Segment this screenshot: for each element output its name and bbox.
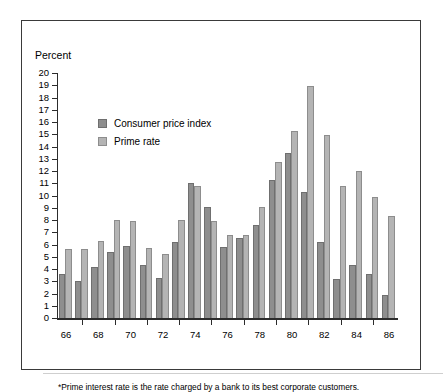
y-tick <box>52 171 57 172</box>
x-tick-label: 78 <box>248 329 272 340</box>
y-tick-label: 4 <box>27 264 49 273</box>
x-tick-label: 68 <box>86 329 110 340</box>
y-tick-label: 13 <box>27 154 49 163</box>
x-tick <box>82 319 83 325</box>
y-tick-label: 11 <box>27 178 49 187</box>
y-tick-label: 2 <box>27 289 49 298</box>
y-tick <box>52 147 57 148</box>
bar-prime-71 <box>146 248 152 318</box>
bar-prime-76 <box>227 235 233 318</box>
chart-legend: Consumer price index Prime rate <box>98 118 211 154</box>
y-tick-label: 3 <box>27 276 49 285</box>
x-tick-label: 76 <box>216 329 240 340</box>
y-tick-label: 12 <box>27 166 49 175</box>
y-tick-label: 8 <box>27 215 49 224</box>
y-tick <box>52 183 57 184</box>
y-tick <box>52 122 57 123</box>
y-tick-label: 5 <box>27 252 49 261</box>
x-tick <box>341 319 342 325</box>
y-tick <box>52 73 57 74</box>
y-tick-label: 17 <box>27 105 49 114</box>
plot-area <box>58 73 397 318</box>
bar-prime-75 <box>211 221 217 318</box>
bar-prime-74 <box>194 186 200 318</box>
chart-figure-frame: Percent 01234567891011121314151617181920… <box>21 20 421 370</box>
bar-prime-84 <box>356 171 362 318</box>
x-tick-label: 70 <box>119 329 143 340</box>
bar-prime-82 <box>324 135 330 318</box>
y-tick-label: 10 <box>27 191 49 200</box>
y-axis-title: Percent <box>35 49 71 61</box>
x-tick <box>147 319 148 325</box>
y-tick <box>52 232 57 233</box>
x-tick-label: 72 <box>151 329 175 340</box>
y-tick-label: 9 <box>27 203 49 212</box>
bar-prime-78 <box>259 207 265 318</box>
x-tick-label: 74 <box>183 329 207 340</box>
y-tick-label: 15 <box>27 129 49 138</box>
x-tick-label: 80 <box>280 329 304 340</box>
legend-label-prime: Prime rate <box>114 136 160 147</box>
x-tick-label: 82 <box>312 329 336 340</box>
y-tick <box>52 281 57 282</box>
x-tick <box>308 319 309 325</box>
y-tick <box>52 245 57 246</box>
y-tick <box>52 98 57 99</box>
y-tick-label: 18 <box>27 93 49 102</box>
x-tick-label: 66 <box>54 329 78 340</box>
y-tick <box>52 294 57 295</box>
x-tick-label: 84 <box>345 329 369 340</box>
bar-prime-73 <box>178 220 184 318</box>
bar-prime-79 <box>275 162 281 318</box>
y-tick-label: 16 <box>27 117 49 126</box>
bar-prime-67 <box>81 249 87 318</box>
chart-footnote: *Prime interest rate is the rate charged… <box>58 382 359 392</box>
y-tick-label: 6 <box>27 240 49 249</box>
y-tick <box>52 220 57 221</box>
x-tick <box>211 319 212 325</box>
y-tick <box>52 110 57 111</box>
x-tick <box>276 319 277 325</box>
bar-prime-83 <box>340 186 346 318</box>
y-tick <box>52 85 57 86</box>
y-tick <box>52 269 57 270</box>
bar-prime-80 <box>291 131 297 318</box>
y-tick <box>52 134 57 135</box>
y-tick <box>52 257 57 258</box>
bar-prime-77 <box>243 235 249 318</box>
bar-prime-66 <box>65 249 71 318</box>
legend-item-prime: Prime rate <box>98 136 211 147</box>
bar-prime-69 <box>114 220 120 318</box>
y-tick-label: 1 <box>27 301 49 310</box>
x-tick-label: 86 <box>377 329 401 340</box>
y-tick-label: 0 <box>27 313 49 322</box>
y-tick <box>52 159 57 160</box>
footnote-divider <box>43 373 443 374</box>
bar-prime-81 <box>307 86 313 318</box>
x-tick <box>244 319 245 325</box>
legend-label-cpi: Consumer price index <box>114 118 211 129</box>
y-tick-label: 14 <box>27 142 49 151</box>
legend-item-cpi: Consumer price index <box>98 118 211 129</box>
y-tick-label: 19 <box>27 80 49 89</box>
y-tick-label: 7 <box>27 227 49 236</box>
x-tick <box>115 319 116 325</box>
y-tick <box>52 196 57 197</box>
x-tick <box>373 319 374 325</box>
y-tick <box>52 306 57 307</box>
x-tick <box>179 319 180 325</box>
bar-prime-85 <box>372 197 378 318</box>
bar-prime-68 <box>98 241 104 318</box>
x-axis-line <box>57 318 398 320</box>
bar-prime-70 <box>130 221 136 318</box>
y-tick <box>52 208 57 209</box>
bar-prime-72 <box>162 254 168 318</box>
legend-swatch-prime <box>98 137 107 146</box>
legend-swatch-cpi <box>98 119 107 128</box>
bar-prime-86 <box>388 216 394 318</box>
y-tick-label: 20 <box>27 68 49 77</box>
